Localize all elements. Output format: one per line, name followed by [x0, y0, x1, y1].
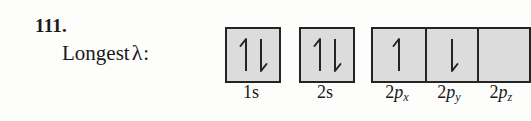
- orbital-label-2pz: 2pz: [475, 83, 527, 101]
- problem-number: 111.: [35, 16, 67, 35]
- electron-spins: [427, 29, 477, 81]
- orbital-box-2s[interactable]: [301, 29, 353, 81]
- orbital-group-2s: 2s: [299, 27, 355, 83]
- orbital-group-1s: 1s: [225, 27, 281, 83]
- orbital-box-row: [225, 27, 281, 83]
- orbital-label-2s: 2s: [299, 83, 351, 101]
- prompt-colon: :: [142, 41, 149, 65]
- orbital-label-row: 2px2py2pz: [371, 83, 527, 101]
- spin-up-arrow: [313, 37, 327, 73]
- electron-spins: [227, 29, 279, 81]
- orbital-box-2px[interactable]: [373, 29, 425, 81]
- spin-up-arrow: [239, 37, 253, 73]
- orbital-box-row: [299, 27, 355, 83]
- orbital-label-2px: 2px: [371, 83, 423, 101]
- orbital-box-2pz[interactable]: [477, 29, 529, 81]
- orbital-box-2py[interactable]: [425, 29, 477, 81]
- orbital-box-row: [371, 27, 531, 83]
- electron-spins: [479, 29, 529, 81]
- spin-down-arrow: [254, 37, 268, 73]
- electron-spins: [373, 29, 425, 81]
- electron-spins: [301, 29, 353, 81]
- orbital-label-2py: 2py: [423, 83, 475, 101]
- spin-up-arrow: [392, 37, 406, 73]
- orbital-label-row: 2s: [299, 83, 351, 101]
- prompt-text: Longest: [62, 41, 130, 65]
- spin-down-arrow: [445, 37, 459, 73]
- orbital-label-row: 1s: [225, 83, 277, 101]
- orbital-group-2p: 2px2py2pz: [371, 27, 531, 83]
- orbital-label-1s: 1s: [225, 83, 277, 101]
- prompt-label: Longestλ:: [62, 42, 149, 64]
- spin-down-arrow: [328, 37, 342, 73]
- lambda-symbol: λ: [130, 40, 143, 65]
- orbital-box-1s[interactable]: [227, 29, 279, 81]
